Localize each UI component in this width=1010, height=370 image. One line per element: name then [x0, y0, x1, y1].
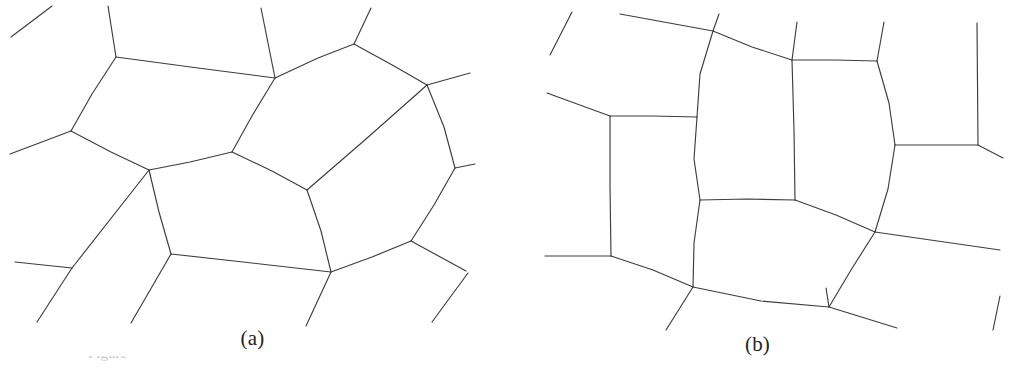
edge-topleft-left: [71, 57, 116, 131]
edge-lowleft-bottomleft: [611, 256, 693, 287]
edge-midcenter-centerlowleft: [694, 117, 700, 200]
edge-right-rightlower: [411, 168, 455, 241]
stub-from-bottomleft-down: [131, 254, 171, 323]
edge-midleft-bottomleft: [149, 170, 171, 254]
stub-from-lowright-out: [875, 232, 1000, 250]
stub-from-topright-up: [877, 22, 884, 61]
edge-midleft-lowleft: [610, 116, 611, 256]
stub-from-upperright-up: [792, 22, 797, 60]
stub-from-topleft-up: [108, 6, 116, 57]
foam-network-b: [505, 0, 1010, 370]
edge-topright-right: [877, 61, 895, 145]
stub-from-topmid-up: [261, 8, 275, 78]
stub-from-bottomleft-down: [666, 287, 693, 330]
edge-lowright-bottomright: [829, 232, 875, 307]
stub-from-rightlower-out: [411, 241, 466, 271]
stub-from-bottomright-out: [829, 307, 897, 328]
panel-b-label: (b): [505, 332, 1010, 357]
edge-topright-rightupper: [354, 44, 427, 85]
stub-from-topmidleft-up: [713, 14, 719, 31]
stub-top-left-corner: [550, 12, 572, 55]
stub-lower-left-branch-in: [15, 262, 72, 268]
edge-centerlowleft-centerlowright: [700, 199, 795, 200]
edge-center-centerlow: [232, 152, 307, 190]
edge-topmid-center: [232, 78, 275, 152]
panel-a-label-text: (a): [241, 326, 265, 350]
edge-upperright-centerlowright: [792, 60, 795, 200]
edge-rightupper-centerlow: [307, 85, 427, 190]
stub-from-topmidleft-left: [620, 14, 713, 31]
cell-walls-b: [610, 31, 895, 307]
panel-b-label-text: (b): [745, 332, 770, 356]
foam-network-a: [0, 0, 505, 370]
stub-top-left-corner: [11, 6, 52, 37]
panel-a-label: (a): [0, 326, 505, 351]
edge-rightupper-right: [427, 85, 455, 168]
caption-sliver-text: Figure: [88, 356, 127, 362]
edge-center-midleft: [149, 152, 232, 170]
edge-bottommid-rightlower: [331, 241, 411, 272]
cell-walls-a: [71, 44, 455, 272]
edge-centerlowleft-bottomleft: [693, 200, 700, 287]
stub-right-corner-down: [978, 145, 1003, 158]
stub-from-left-out: [10, 131, 71, 154]
stub-bottom-right-corner: [432, 273, 468, 322]
stub-right-corner-up: [977, 23, 978, 145]
edge-topmidleft-midcenter: [697, 31, 713, 117]
stub-from-bottommid-down: [306, 272, 331, 326]
edge-midleft-midcenter: [610, 116, 697, 117]
panel-a: (a): [0, 0, 505, 370]
stub-from-right-out: [455, 164, 475, 168]
edge-bottomleft-bottomright: [693, 287, 829, 307]
edge-bottomleft-bottommid: [171, 254, 331, 272]
edge-left-midleft: [71, 131, 149, 170]
edge-centerlowright-lowright: [795, 200, 875, 232]
edge-topleft-topmid: [116, 57, 275, 78]
cell-wall-stubs-a: [10, 6, 475, 326]
figure-root: (a) (b) Figure: [0, 0, 1010, 370]
edge-upperright-topright: [792, 60, 877, 61]
panel-b: (b): [505, 0, 1010, 370]
cell-wall-stubs-b: [545, 12, 1003, 330]
edge-centerlow-bottommid: [307, 190, 331, 272]
edge-topmidleft-upperright: [713, 31, 792, 60]
stub-from-midleft-down: [72, 170, 149, 268]
stub-bottom-right-corner: [993, 296, 1000, 330]
edge-right-lowright: [875, 145, 895, 232]
stub-from-rightupper-out: [427, 73, 470, 85]
stub-lower-left-branch-down: [37, 268, 72, 322]
caption-sliver: Figure: [88, 356, 418, 369]
edge-topmid-topright: [275, 44, 354, 78]
stub-from-topright-up: [354, 8, 371, 44]
stub-from-bottomright-up: [826, 288, 829, 307]
stub-from-midleft-out: [547, 93, 610, 116]
